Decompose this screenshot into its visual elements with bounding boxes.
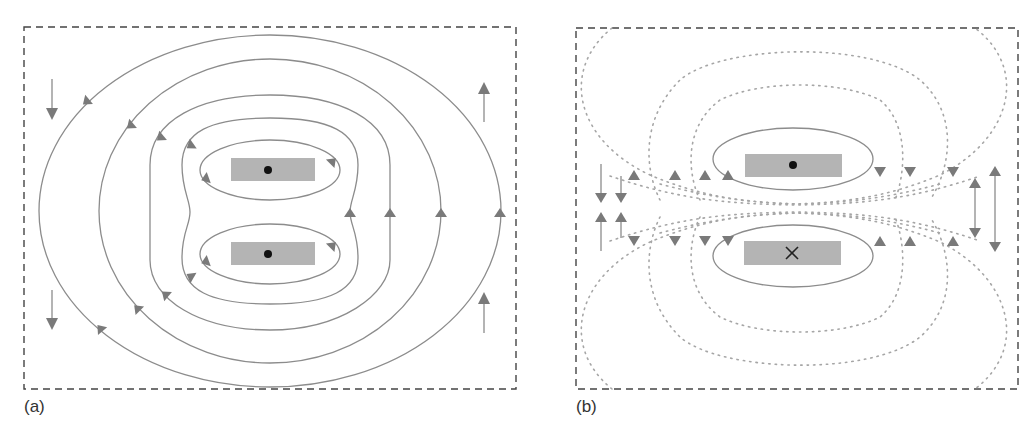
conductor-bottom	[231, 242, 315, 265]
panel-label-a: (a)	[24, 397, 45, 417]
panel-a: (a)	[0, 0, 540, 447]
field-line-outer-4	[39, 35, 501, 387]
panel-b: (b)	[540, 0, 1033, 447]
field-line-outer-2	[150, 95, 390, 330]
dotted-field-lines-lower	[581, 212, 1006, 389]
panel-label-b: (b)	[576, 397, 597, 417]
current-out-icon	[264, 166, 272, 174]
boundary-arrows-right	[969, 166, 1001, 252]
field-direction-arrows	[628, 167, 959, 246]
boundary-arrows	[46, 79, 490, 333]
field-diagram-same-direction	[0, 0, 540, 447]
field-diagram-opposite-direction	[540, 0, 1033, 447]
boundary-frame	[576, 28, 1018, 389]
field-line-outer-1	[182, 118, 358, 304]
conductor-top	[231, 158, 315, 181]
dotted-field-lines-upper	[581, 28, 1006, 205]
boundary-frame	[24, 27, 516, 389]
field-direction-arrows	[79, 95, 506, 335]
current-out-icon	[264, 250, 272, 258]
current-out-icon	[789, 161, 797, 169]
